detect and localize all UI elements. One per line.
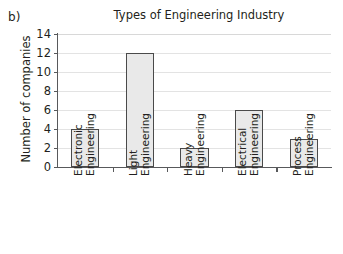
y-tick-label: 2: [44, 141, 51, 155]
x-axis-label-line2: Engineering: [303, 113, 315, 176]
x-axis-label-line2: Engineering: [248, 113, 260, 176]
x-axis-label-line1: Light: [127, 113, 139, 176]
gridline: [58, 34, 331, 35]
y-tick-mark: [54, 167, 58, 168]
y-tick-mark: [54, 91, 58, 92]
y-axis-title: Number of companies: [19, 27, 33, 172]
x-axis-label-line1: Heavy: [182, 113, 194, 176]
y-tick-label: 4: [44, 122, 51, 136]
gridline: [58, 110, 331, 111]
y-tick-label: 10: [36, 65, 51, 79]
y-tick-mark: [54, 148, 58, 149]
chart-title: Types of Engineering Industry: [66, 8, 332, 22]
y-tick-mark: [54, 110, 58, 111]
y-tick-mark: [54, 129, 58, 130]
gridline: [58, 53, 331, 54]
y-tick-label: 0: [44, 160, 51, 174]
x-axis-label-line2: Engineering: [139, 113, 151, 176]
y-tick-label: 14: [36, 27, 51, 41]
gridline: [58, 72, 331, 73]
y-tick-label: 8: [44, 84, 51, 98]
x-tick-mark: [276, 167, 277, 172]
chart-screenshot: b) Types of Engineering Industry Number …: [0, 0, 343, 254]
y-tick-mark: [54, 53, 58, 54]
y-tick-label: 12: [36, 46, 51, 60]
x-axis-label-line2: Engineering: [194, 113, 206, 176]
panel-label: b): [8, 10, 21, 24]
x-axis-label-line1: Electronic: [72, 113, 84, 176]
y-tick-label: 6: [44, 103, 51, 117]
x-axis-label-line1: Electrical: [236, 113, 248, 176]
x-axis-label-line1: Process: [291, 113, 303, 176]
x-tick-mark: [222, 167, 223, 172]
x-tick-mark: [113, 167, 114, 172]
x-tick-mark: [167, 167, 168, 172]
y-tick-mark: [54, 34, 58, 35]
y-tick-mark: [54, 72, 58, 73]
x-axis-label-line2: Engineering: [84, 113, 96, 176]
gridline: [58, 91, 331, 92]
